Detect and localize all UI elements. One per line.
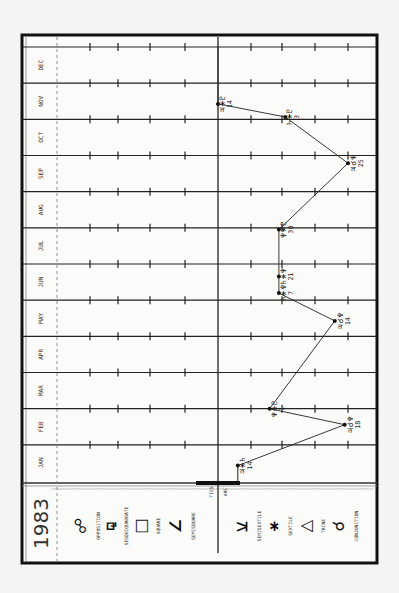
data-label-day: 18 (354, 421, 362, 429)
month-label-may: MAY (37, 312, 44, 323)
data-label-day: 3 (293, 115, 301, 119)
aspect-symbol-semisextile: ⚺ (232, 521, 251, 532)
aspect-label-sextile: SEXTILE (288, 516, 293, 536)
data-label-day: 14 (226, 100, 234, 108)
aspect-symbol-opposition: ☍ (71, 518, 90, 534)
divider-label-right: ARE (223, 488, 228, 496)
aspect-symbol-semisquare: ∠ (166, 519, 185, 533)
aspect-symbol-square: □ (131, 518, 150, 533)
aspect-label-sesquiquadrate: SESQUIQUADRATE (124, 506, 129, 545)
month-label-mar: MAR (37, 385, 44, 396)
aspect-symbol-sextile: ⚹ (263, 521, 282, 531)
data-label-day: 14 (344, 317, 352, 325)
aspect-symbol-conjunction: ☌ (329, 521, 348, 532)
data-label-day: 30 (287, 225, 295, 233)
aspect-label-semisquare: SEMISQUARE (191, 512, 196, 540)
month-label-aug: AUG (37, 204, 44, 215)
year-title: 1983 (29, 498, 53, 549)
aspect-symbol-trine: △ (296, 519, 315, 532)
aspect-chart: JANFEBMARAPRMAYJUNJULAUGSEPOCTNOVDEC 198… (0, 0, 399, 593)
month-label-sep: SEP (37, 168, 44, 179)
month-label-nov: NOV (37, 95, 44, 106)
month-label-apr: APR (37, 349, 44, 360)
month-label-feb: FEB (37, 421, 44, 432)
aspect-label-conjunction: CONJUNCTION (354, 511, 359, 542)
data-label-day: 14 (246, 461, 254, 469)
data-label-day: 25 (357, 159, 365, 167)
divider-marker-bar (196, 481, 240, 485)
data-label-day: 7 (287, 291, 295, 295)
data-label-day: 1 (278, 407, 286, 411)
month-label-jun: JUN (37, 276, 44, 287)
month-label-oct: OCT (37, 132, 44, 143)
month-label-jan: JAN (37, 457, 44, 468)
aspect-label-square: SQUARE (156, 517, 161, 534)
month-label-dec: DEC (37, 59, 44, 70)
data-label-day: 21 (287, 272, 295, 280)
aspect-label-trine: TRINE (321, 519, 326, 533)
aspect-label-semisextile: SEMISEXTILE (257, 511, 262, 542)
aspect-symbol-sesquiquadrate: ⚼ (101, 521, 117, 531)
month-label-jul: JUL (37, 240, 44, 251)
divider-label-left: TIES (209, 486, 214, 497)
